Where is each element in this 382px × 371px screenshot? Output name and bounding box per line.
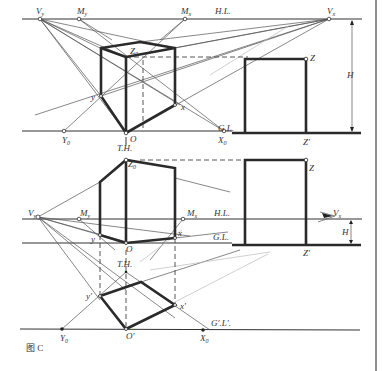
label-vx-bottom: Vx	[333, 208, 342, 219]
label-y0: Y0	[62, 135, 70, 146]
label-zprime: Z′	[303, 137, 311, 147]
label-vy: Vy	[36, 6, 45, 17]
top-view: Vy My Mx H.L. Vx Z0 Z H y x Y0 O X0 G.L.…	[22, 6, 362, 147]
label-x: x	[180, 102, 185, 112]
label-ground-bottom: G.L.	[213, 232, 229, 242]
label-vy-bottom: Vy	[28, 208, 37, 219]
label-horizon-bottom: H.L.	[213, 208, 230, 218]
figure-caption: 图 C	[26, 343, 43, 353]
label-y0-bottom: Y0	[60, 333, 68, 344]
label-oprime: O′	[126, 331, 135, 341]
label-my-bottom: My	[79, 208, 91, 219]
diagram-svg: Vy My Mx H.L. Vx Z0 Z H y x Y0 O X0 G.L.…	[0, 0, 382, 371]
label-mx: Mx	[180, 6, 192, 17]
label-yprime: y′	[85, 291, 93, 301]
label-x0-bottom: X0	[199, 333, 209, 344]
label-z0: Z0	[130, 46, 138, 57]
label-ground: G.L.	[218, 123, 234, 133]
label-mx-bottom: Mx	[186, 208, 198, 219]
label-h: H	[346, 70, 354, 80]
label-ground-prime: G′.L′.	[211, 318, 231, 328]
label-xprime: x′	[179, 301, 187, 311]
label-my: My	[76, 6, 88, 17]
label-h-bottom: H	[341, 227, 349, 237]
label-z-bottom: Z	[309, 163, 315, 173]
label-y-bottom: y	[90, 234, 95, 244]
bottom-view: T.H.	[20, 137, 362, 353]
label-z: Z	[310, 53, 316, 63]
label-horizon: H.L.	[214, 6, 231, 16]
label-zprime-bottom: Z′	[303, 248, 311, 258]
label-x0: X0	[217, 135, 227, 146]
perspective-diagram: Vy My Mx H.L. Vx Z0 Z H y x Y0 O X0 G.L.…	[0, 0, 382, 371]
label-th-mid: T.H.	[117, 259, 132, 269]
label-y: y	[90, 92, 95, 102]
label-th-top: T.H.	[117, 143, 132, 153]
label-x-bottom: x	[177, 228, 182, 238]
label-vx: Vx	[327, 6, 336, 17]
label-o-bottom: O	[126, 244, 133, 254]
ground-line-prime	[20, 329, 360, 330]
